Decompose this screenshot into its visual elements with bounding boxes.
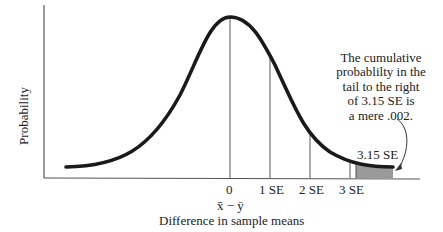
- normal-distribution-figure: Probability 0 1 SE 2 SE 3 SE 3.15 SE x̄ …: [0, 0, 443, 232]
- annotation-line: probablilty in the: [317, 65, 443, 79]
- cutoff-label: 3.15 SE: [357, 147, 398, 163]
- annotation-line: of 3.15 SE is: [317, 94, 443, 108]
- tick-label-3se: 3 SE: [339, 182, 364, 198]
- y-axis-label: Probability: [16, 87, 32, 145]
- x-axis-sublabel: x̄ − ȳ: [217, 198, 244, 214]
- annotation-line: tail to the right: [317, 80, 443, 94]
- arrow-head-icon: [395, 163, 402, 171]
- tick-label-0: 0: [226, 182, 233, 198]
- annotation-arrow: [397, 119, 407, 170]
- tail-annotation: The cumulative probablilty in the tail t…: [317, 51, 443, 123]
- annotation-line: The cumulative: [317, 51, 443, 65]
- tick-label-1se: 1 SE: [259, 182, 284, 198]
- x-axis: [44, 178, 420, 179]
- x-axis-label: Difference in sample means: [159, 213, 304, 229]
- annotation-line: a mere .002.: [317, 109, 443, 123]
- tick-label-2se: 2 SE: [299, 182, 324, 198]
